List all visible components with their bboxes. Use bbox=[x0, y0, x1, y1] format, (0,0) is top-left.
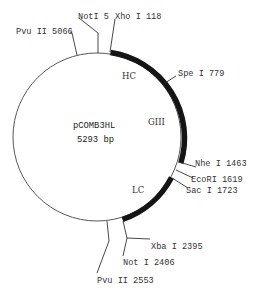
leader-xbai-2395 bbox=[123, 221, 150, 239]
leader-nhei-1463 bbox=[179, 162, 196, 167]
feature-arc-lc bbox=[123, 178, 172, 220]
region-label-lc: LC bbox=[132, 185, 144, 195]
site-label-ecori-1619: EcoRI 1619 bbox=[191, 175, 243, 185]
leader-pvuii-2553 bbox=[97, 221, 109, 273]
site-label-noti-5: NotI 5 bbox=[78, 12, 109, 22]
region-label-hc: HC bbox=[122, 71, 136, 81]
plasmid-size: 5293 bp bbox=[77, 135, 114, 145]
feature-arc-hc-giii bbox=[111, 53, 185, 164]
region-label-giii: GIII bbox=[148, 117, 165, 127]
site-label-noti-2406: Not I 2406 bbox=[123, 258, 175, 268]
leader-noti-2406 bbox=[123, 238, 127, 256]
leader-spei-779 bbox=[165, 76, 176, 83]
site-label-nhei-1463: Nhe I 1463 bbox=[195, 159, 247, 169]
plasmid-name: pCOMB3HL bbox=[73, 121, 115, 131]
site-label-pvuii-2553: Pvu II 2553 bbox=[97, 276, 154, 286]
site-label-xbai-2395: Xba I 2395 bbox=[151, 242, 203, 252]
leader-noti-5 bbox=[79, 18, 98, 53]
site-label-pvuii-5066: Pvu II 5066 bbox=[16, 27, 73, 37]
site-label-xhoi-118: Xho I 118 bbox=[115, 12, 161, 22]
site-label-saci-1723: Sac I 1723 bbox=[186, 186, 238, 196]
plasmid-map: HC GIII LC pCOMB3HL 5293 bp Pvu II 5066 … bbox=[0, 0, 253, 296]
leader-xhoi-118 bbox=[110, 19, 115, 52]
site-label-spei-779: Spe I 779 bbox=[178, 69, 224, 79]
